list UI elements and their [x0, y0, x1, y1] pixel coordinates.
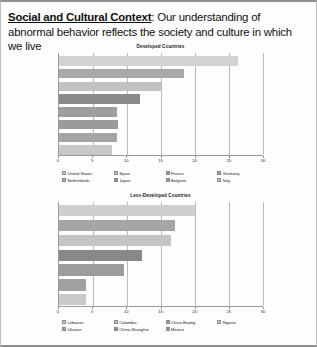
bar-row: [59, 217, 263, 232]
axis-tick-label: 5: [91, 158, 93, 163]
chart-legend-less-developed: LebanonUkraineColombiaChina-ShanghaiChin…: [58, 319, 268, 332]
legend-label: Italy: [223, 178, 231, 183]
bar: [59, 279, 86, 290]
legend-item: Nigeria: [217, 319, 268, 325]
axis-tick-label: 25: [226, 309, 231, 314]
bar: [59, 294, 86, 305]
legend-item: Lebanon: [62, 319, 113, 325]
axis-tick-label: 10: [124, 158, 129, 163]
bar-row: [59, 117, 263, 130]
legend-item: Belgium: [166, 177, 217, 183]
legend-label: United States: [68, 171, 93, 176]
legend-item: Spain: [114, 170, 165, 176]
legend-swatch-icon: [62, 178, 66, 182]
legend-item: Colombia: [114, 319, 165, 325]
chart-plot-area: [58, 53, 263, 155]
legend-swatch-icon: [217, 171, 221, 175]
chart-less-developed-countries: Less-Developed Countries 051015202530: [58, 193, 263, 318]
legend-label: France: [171, 171, 184, 176]
bar: [59, 145, 112, 155]
legend-label: Netherlands: [68, 178, 90, 183]
chart-developed-countries: Developed Countries 051015202530: [58, 44, 263, 167]
legend-item: Ukraine: [62, 326, 113, 332]
bar: [59, 235, 171, 246]
gridline: [263, 53, 264, 155]
bar: [59, 69, 184, 79]
chart-plot-area: [58, 202, 263, 306]
legend-item: United States: [62, 170, 113, 176]
legend-label: Colombia: [119, 320, 136, 325]
slide-frame: Social and Cultural Context: Our underst…: [0, 0, 317, 347]
legend-swatch-icon: [217, 178, 221, 182]
axis-tick-label: 30: [261, 309, 266, 314]
legend-item: Mexico: [166, 326, 217, 332]
chart-x-axis: 051015202530: [58, 306, 263, 318]
bar-row: [59, 232, 263, 247]
legend-label: Germany: [223, 171, 240, 176]
legend-item: China-Shanghai: [114, 326, 165, 332]
legend-label: China-Shanghai: [119, 327, 148, 332]
axis-tick-label: 20: [192, 158, 197, 163]
axis-tick-label: 5: [91, 309, 93, 314]
bar-row: [59, 247, 263, 262]
bar-row: [59, 142, 263, 155]
bar: [59, 205, 195, 216]
bar: [59, 120, 118, 130]
axis-tick-label: 20: [192, 309, 197, 314]
chart-title: Developed Countries: [58, 44, 263, 51]
bar-row: [59, 104, 263, 117]
page-title-lead: Social and Cultural Context: [8, 11, 151, 23]
legend-item: Germany: [217, 170, 268, 176]
legend-item: Netherlands: [62, 177, 113, 183]
legend-swatch-icon: [114, 171, 118, 175]
legend-item: Japan: [114, 177, 165, 183]
axis-tick-label: 25: [226, 158, 231, 163]
legend-label: China-Beijing: [171, 320, 195, 325]
legend-swatch-icon: [166, 178, 170, 182]
bar: [59, 133, 117, 143]
chart-x-axis: 051015202530: [58, 155, 263, 167]
bar: [59, 82, 161, 92]
axis-tick-label: 15: [158, 309, 163, 314]
bar-row: [59, 130, 263, 143]
legend-label: Ukraine: [68, 327, 82, 332]
legend-swatch-icon: [166, 171, 170, 175]
legend-swatch-icon: [62, 171, 66, 175]
axis-tick-label: 10: [124, 309, 129, 314]
bar-row: [59, 91, 263, 104]
legend-label: Lebanon: [68, 320, 84, 325]
bar-row: [59, 202, 263, 217]
legend-swatch-icon: [217, 320, 221, 324]
axis-tick-label: 0: [57, 158, 59, 163]
bar: [59, 250, 142, 261]
bar-row: [59, 66, 263, 79]
bar: [59, 94, 140, 104]
chart-bars: [59, 53, 263, 155]
axis-tick-label: 30: [261, 158, 266, 163]
bar: [59, 264, 124, 275]
axis-tick-label: 15: [158, 158, 163, 163]
bar-row: [59, 261, 263, 276]
legend-swatch-icon: [114, 327, 118, 331]
bar: [59, 107, 117, 117]
gridline: [263, 202, 264, 306]
legend-swatch-icon: [62, 320, 66, 324]
legend-item: China-Beijing: [166, 319, 217, 325]
bar-row: [59, 79, 263, 92]
legend-label: Nigeria: [223, 320, 236, 325]
legend-label: Mexico: [171, 327, 184, 332]
legend-swatch-icon: [62, 327, 66, 331]
legend-label: Spain: [119, 171, 129, 176]
legend-item: France: [166, 170, 217, 176]
legend-swatch-icon: [166, 320, 170, 324]
legend-swatch-icon: [114, 178, 118, 182]
chart-title: Less-Developed Countries: [58, 193, 263, 200]
chart-legend-developed: United StatesNetherlandsSpainJapanFrance…: [58, 170, 268, 183]
axis-tick-label: 0: [57, 309, 59, 314]
chart-bars: [59, 202, 263, 306]
bar-row: [59, 276, 263, 291]
legend-label: Japan: [119, 178, 130, 183]
legend-swatch-icon: [114, 320, 118, 324]
bar: [59, 56, 238, 66]
bar: [59, 220, 175, 231]
